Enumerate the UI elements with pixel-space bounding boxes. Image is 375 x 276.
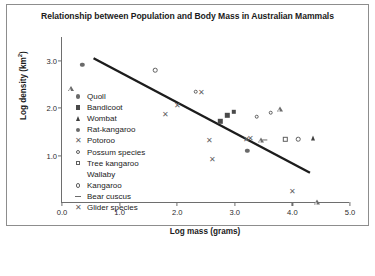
legend-item-possum-species[interactable]: Possum species [71,146,191,157]
legend-marker-open-triangle-icon [71,171,85,178]
legend-item-label: Bear cuscus [85,192,131,201]
x-tick-mark [349,202,350,206]
legend-item-rat-kangaroo[interactable]: Rat-kangaroo [71,124,191,135]
y-tick-mark [58,60,62,61]
y-axis-label-text: Log density (km2) [19,51,28,120]
legend-item-potoroo[interactable]: ✕Potoroo [71,135,191,146]
y-tick-label: 2.0 [46,104,57,113]
data-point-dash [262,139,267,140]
legend-item-wallaby[interactable]: Wallaby [71,169,191,180]
legend-marker-open-circle-icon [71,183,85,188]
x-tick-label: 4.0 [287,208,298,217]
legend-item-label: Rat-kangaroo [85,125,135,134]
x-tick-mark [292,202,293,206]
legend-item-label: Possum species [85,148,145,157]
legend-item-label: Bandicoot [85,103,123,112]
legend-marker-open-square-icon [71,161,85,165]
legend-item-label: Wombat [85,114,117,123]
legend-marker-filled-square-icon [71,105,85,109]
data-point-filled-square [231,110,235,114]
y-axis-label: Log density (km2) [17,51,28,120]
data-point-filled-triangle [311,135,315,140]
x-axis-label: Log mass (grams) [61,227,349,236]
y-tick-mark [58,108,62,109]
legend-marker-open-circle-icon [71,150,85,155]
data-point-open-circle [153,68,158,73]
data-point-open-circle [268,111,273,116]
chart-legend: QuollBandicootWombatRat-kangaroo✕Potoroo… [71,91,191,213]
legend-item-bear-cuscus[interactable]: Bear cuscus [71,191,191,202]
chart-title: Relationship between Population and Body… [7,11,368,21]
data-point-open-triangle [277,111,283,116]
y-tick-label: 3.0 [46,56,57,65]
x-tick-mark [234,202,235,206]
data-point-filled-circle [76,128,80,132]
data-point-filled-circle [76,94,80,98]
data-point-dash [75,196,80,197]
x-axis-label-text: Log mass (grams) [170,227,241,236]
x-tick-label: 5.0 [345,208,356,217]
legend-marker-filled-circle-icon [71,128,85,132]
data-point-open-square [283,137,287,141]
legend-item-wombat[interactable]: Wombat [71,113,191,124]
data-point-filled-triangle [76,116,80,121]
data-point-open-square [76,161,80,165]
data-point-filled-square [76,105,80,109]
data-point-open-triangle [258,142,264,147]
legend-marker-x-cross-icon: ✕ [71,137,85,144]
legend-marker-filled-triangle-icon [71,116,85,121]
legend-item-label: Quoll [85,92,106,101]
legend-marker-x-cross-icon: ✕ [71,204,85,211]
data-point-x-cross: ✕ [206,137,213,144]
chart-screenshot: Relationship between Population and Body… [0,0,375,276]
data-point-x-cross: ✕ [289,187,296,194]
data-point-filled-square [225,113,229,117]
data-point-x-cross: ✕ [75,204,82,211]
data-point-x-cross: ✕ [75,137,82,144]
data-point-open-circle [76,150,81,155]
data-point-open-triangle [314,205,320,210]
data-point-filled-square [218,119,222,123]
legend-item-quoll[interactable]: Quoll [71,91,191,102]
chart-frame: Relationship between Population and Body… [6,4,369,226]
x-tick-label: 0.0 [57,208,68,217]
x-tick-mark [61,202,62,206]
y-tick-mark [58,155,62,156]
y-tick-label: 1.0 [46,151,57,160]
data-point-x-cross: ✕ [209,156,216,163]
data-point-x-cross: ✕ [247,135,254,142]
legend-item-label: Kangaroo [85,181,122,190]
legend-item-label: Tree kangaroo [85,159,139,168]
legend-item-tree-kangaroo[interactable]: Tree kangaroo [71,158,191,169]
legend-item-label: Wallaby [85,170,115,179]
legend-marker-dash-icon [71,196,85,197]
x-tick-label: 3.0 [230,208,241,217]
data-point-open-circle [296,137,301,142]
data-point-open-circle [76,183,81,188]
legend-item-glider-species[interactable]: ✕Glider species [71,202,191,213]
legend-item-kangaroo[interactable]: Kangaroo [71,180,191,191]
legend-item-label: Potoroo [85,136,115,145]
data-point-x-cross: ✕ [198,89,205,96]
legend-item-bandicoot[interactable]: Bandicoot [71,102,191,113]
legend-marker-filled-circle-icon [71,94,85,98]
data-point-open-triangle [75,173,81,178]
legend-item-label: Glider species [85,203,138,212]
data-point-open-circle [254,114,259,119]
